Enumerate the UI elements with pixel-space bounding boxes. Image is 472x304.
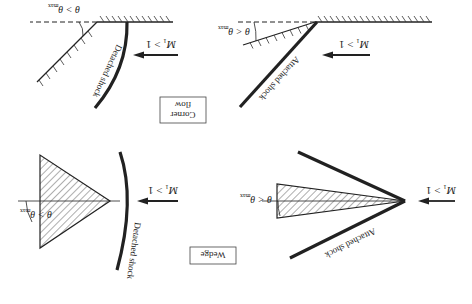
ramp-hatch: [39, 31, 92, 86]
flow-arrow: [322, 52, 370, 59]
wedge-attached-panel: M1 > 1 θ < θmax Attached shock: [240, 152, 457, 261]
mach-label: M1 > 1: [426, 183, 457, 197]
angle-label: θ > θmax: [20, 208, 52, 220]
ramp: [243, 22, 315, 45]
flow-arrow: [418, 198, 455, 205]
shock-diagram: M1 > 1 θ > θmax Detached shock: [0, 0, 472, 304]
corner-attached-panel: M1 > 1 θ < θmax Attached shock: [218, 16, 432, 107]
corner-flow-label-2: flow: [174, 100, 191, 110]
angle-label: θ > θmax: [48, 3, 80, 15]
angle-label: θ < θmax: [240, 193, 272, 205]
mach-label: M1 > 1: [148, 183, 179, 197]
flow-arrow: [133, 52, 178, 59]
wedge-detached-panel: M1 > 1 θ > θmax Detached shock: [18, 152, 179, 280]
mach-label: M1 > 1: [146, 37, 177, 51]
angle-arc: [79, 22, 83, 36]
shock-label: Attached shock: [323, 226, 378, 260]
corner-flow-box: Corner flow: [160, 97, 206, 123]
detached-shock: [117, 152, 127, 270]
corner-detached-panel: M1 > 1 θ > θmax Detached shock: [30, 3, 178, 108]
ramp-hatch: [250, 25, 309, 49]
angle-label: θ < θmax: [218, 25, 250, 37]
angle-arc: [254, 22, 256, 41]
wall-hatch: [318, 16, 430, 22]
corner-flow-label-1: Corner: [171, 110, 196, 120]
shock-label: Detached shock: [125, 222, 143, 281]
wedge-body: [277, 184, 405, 218]
wall-hatch: [100, 16, 170, 22]
mach-label: M1 > 1: [339, 37, 370, 51]
wedge-box: Wedge: [190, 247, 236, 264]
wedge-body: [40, 155, 110, 248]
wedge-label: Wedge: [201, 250, 226, 260]
flow-arrow: [137, 198, 178, 205]
